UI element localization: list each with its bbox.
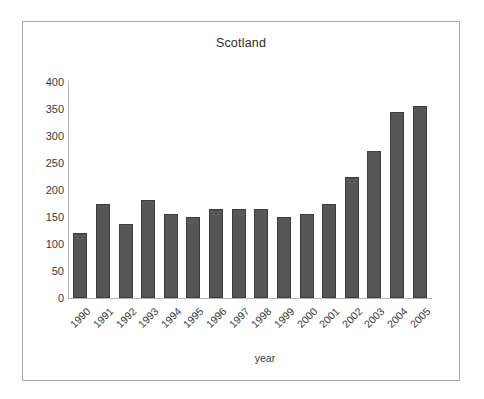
bar — [209, 209, 223, 298]
y-tick-label: 300 — [24, 130, 64, 142]
bar — [141, 200, 155, 298]
bar — [277, 217, 291, 298]
y-axis-tick-labels: 050100150200250300350400 — [23, 82, 64, 298]
y-tick-label: 0 — [24, 292, 64, 304]
bar — [390, 112, 404, 298]
bar — [322, 204, 336, 299]
y-tick-label: 400 — [24, 76, 64, 88]
bar — [119, 224, 133, 298]
y-tick-label: 200 — [24, 184, 64, 196]
bar — [73, 233, 87, 298]
bar — [413, 106, 427, 298]
y-tick-label: 150 — [24, 211, 64, 223]
bar — [96, 204, 110, 299]
chart-title: Scotland — [23, 36, 459, 50]
bar — [232, 209, 246, 298]
bar — [300, 214, 314, 298]
bar — [345, 177, 359, 299]
y-tick-label: 50 — [24, 265, 64, 277]
figure-frame: Scotland 050100150200250300350400 199019… — [22, 21, 460, 381]
y-tick-label: 100 — [24, 238, 64, 250]
bar — [164, 214, 178, 298]
x-axis-title-text: year — [255, 352, 275, 364]
bar — [186, 217, 200, 298]
x-axis-line — [68, 298, 432, 299]
bar — [367, 151, 381, 298]
bar — [254, 209, 268, 298]
y-tick-label: 250 — [24, 157, 64, 169]
x-axis-title: year — [23, 352, 459, 364]
plot-area — [69, 82, 431, 298]
y-tick-label: 350 — [24, 103, 64, 115]
